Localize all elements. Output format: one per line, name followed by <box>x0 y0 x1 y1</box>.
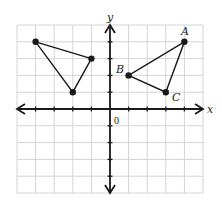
vertex-point <box>70 89 76 95</box>
triangle-abc <box>129 42 185 92</box>
vertex-label-c: C <box>172 91 181 104</box>
coordinate-plane: y x 0 A B C <box>0 0 222 207</box>
vertex-label-b: B <box>115 63 124 76</box>
axes <box>17 25 203 193</box>
vertex-point <box>88 55 94 61</box>
vertex-point-b <box>125 72 131 78</box>
vertex-point-a <box>181 39 187 45</box>
vertex-label-a: A <box>180 25 189 38</box>
y-axis-label: y <box>106 11 114 24</box>
left-triangle <box>36 42 92 92</box>
vertex-point-c <box>163 89 169 95</box>
origin-label: 0 <box>114 115 119 126</box>
vertex-point <box>32 39 38 45</box>
x-axis-label: x <box>207 103 214 116</box>
